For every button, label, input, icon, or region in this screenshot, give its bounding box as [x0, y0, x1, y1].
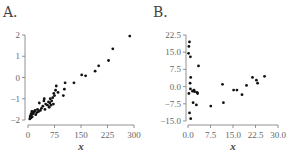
scatter-plot-b: 22.515.07.50.0−7.5−15.00.07.515.022.530.… — [146, 0, 293, 159]
data-point — [50, 99, 53, 102]
data-point — [50, 104, 53, 107]
data-point — [189, 76, 192, 79]
x-tick-label: 225 — [101, 130, 115, 140]
data-point — [189, 55, 192, 58]
data-point — [55, 85, 58, 88]
data-point — [192, 101, 195, 104]
data-point — [97, 64, 100, 67]
data-point — [107, 59, 110, 62]
x-tick-label: 15.0 — [225, 130, 241, 140]
data-point — [84, 74, 87, 77]
data-point — [128, 35, 131, 38]
data-point — [251, 76, 254, 79]
data-point — [241, 93, 244, 96]
data-point — [188, 92, 191, 95]
data-point — [73, 81, 76, 84]
data-point — [222, 101, 225, 104]
data-point — [62, 94, 65, 97]
data-point — [196, 92, 199, 95]
x-tick-label: 30.0 — [270, 130, 286, 140]
x-tick-label: 150 — [74, 130, 88, 140]
data-point — [80, 74, 83, 77]
data-point — [187, 52, 190, 55]
data-point — [255, 79, 258, 82]
data-point — [44, 108, 47, 111]
data-point — [53, 94, 56, 97]
data-point — [63, 88, 66, 91]
data-point — [188, 40, 191, 43]
data-point — [57, 91, 60, 94]
data-point — [256, 82, 259, 85]
y-tick-label: −15.0 — [160, 116, 181, 126]
data-point — [189, 82, 192, 85]
data-point — [236, 89, 239, 92]
data-point — [209, 105, 212, 108]
y-tick-label: 7.5 — [170, 64, 182, 74]
data-point — [31, 115, 34, 118]
y-tick-label: 0.0 — [170, 82, 182, 92]
panel-b: B. 22.515.07.50.0−7.5−15.00.07.515.022.5… — [146, 0, 292, 159]
data-point — [221, 83, 224, 86]
data-point — [188, 112, 191, 115]
x-tick-label: 0 — [26, 130, 31, 140]
x-tick-label: 22.5 — [248, 130, 264, 140]
data-point — [94, 70, 97, 73]
scatter-plot-a: 210−1−2075150225300x — [0, 0, 146, 159]
data-point — [111, 47, 114, 50]
y-tick-label: −7.5 — [165, 99, 182, 109]
panel-a: A. 210−1−2075150225300x — [0, 0, 146, 159]
x-tick-label: 0.0 — [182, 130, 194, 140]
data-point — [189, 87, 192, 90]
data-point — [64, 81, 67, 84]
data-point — [43, 97, 46, 100]
data-point — [232, 89, 235, 92]
x-tick-label: 7.5 — [205, 130, 217, 140]
data-point — [263, 75, 266, 78]
data-point — [54, 89, 57, 92]
x-tick-label: 300 — [127, 130, 141, 140]
data-point — [189, 117, 192, 120]
x-axis-title: x — [229, 140, 236, 152]
data-point — [38, 102, 41, 105]
data-point — [197, 65, 200, 68]
y-tick-label: 1 — [16, 51, 21, 61]
y-tick-label: 2 — [16, 30, 21, 40]
y-tick-label: 15.0 — [165, 47, 181, 57]
y-tick-label: −2 — [10, 115, 20, 125]
data-point — [193, 90, 196, 93]
data-point — [52, 103, 55, 106]
data-point — [188, 45, 191, 48]
data-point — [41, 105, 44, 108]
y-tick-label: 22.5 — [165, 30, 181, 40]
x-tick-label: 75 — [50, 130, 60, 140]
y-tick-label: −1 — [10, 94, 20, 104]
data-point — [195, 104, 198, 107]
data-point — [245, 84, 248, 87]
x-axis-title: x — [77, 140, 84, 152]
y-tick-label: 0 — [16, 73, 21, 83]
